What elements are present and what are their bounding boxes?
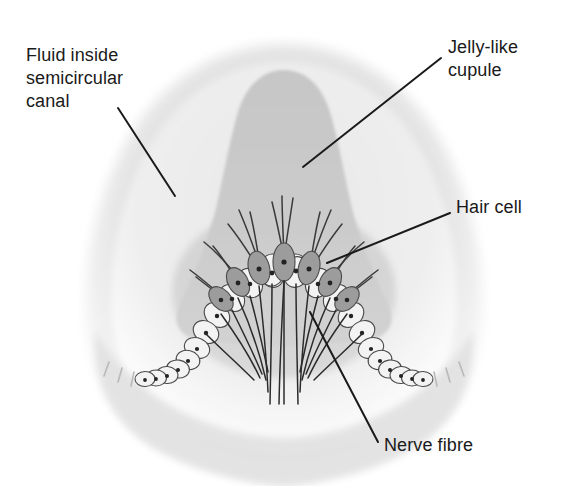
label-fluid-inside-semicircular-canal: Fluid inside semicircular canal [26, 44, 123, 113]
label-hair-cell: Hair cell [456, 196, 522, 219]
label-jelly-like-cupule: Jelly-like cupule [448, 36, 518, 82]
diagram-page: Fluid inside semicircular canal Jelly-li… [0, 0, 568, 486]
label-nerve-fibre: Nerve fibre [384, 434, 473, 457]
